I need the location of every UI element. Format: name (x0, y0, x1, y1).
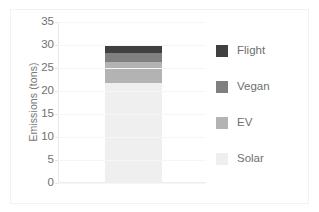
gridline (58, 114, 206, 115)
gridline (58, 183, 206, 184)
legend-item-vegan[interactable]: Vegan (216, 80, 270, 94)
legend-item-flight[interactable]: Flight (216, 44, 265, 58)
y-axis-tick-label: 30 (26, 39, 54, 51)
legend-label: EV (237, 117, 252, 129)
y-axis-tick-label: 5 (26, 154, 54, 166)
y-axis-tick-label: 10 (26, 131, 54, 143)
y-axis-tick-label: 25 (26, 62, 54, 74)
bar-segment-ev[interactable] (105, 62, 162, 83)
gridline (58, 22, 206, 23)
y-axis-tick-mark (55, 160, 58, 161)
plot-area (58, 22, 206, 183)
y-axis-tick-mark (55, 91, 58, 92)
y-axis-tick-mark (55, 45, 58, 46)
gridline (58, 68, 206, 69)
y-axis-tick-label: 0 (26, 177, 54, 189)
legend-label: Flight (237, 45, 265, 57)
bar-segment-flight[interactable] (105, 46, 162, 53)
legend-swatch-flight (216, 45, 228, 57)
legend-swatch-solar (216, 153, 228, 165)
y-axis-tick-labels: 35302520151050 (26, 15, 54, 185)
legend-label: Vegan (237, 81, 270, 93)
legend-label: Solar (237, 153, 264, 165)
y-axis-tick-label: 20 (26, 85, 54, 97)
gridline (58, 45, 206, 46)
y-axis-tick-label: 35 (26, 16, 54, 28)
y-axis-tick-mark (55, 183, 58, 184)
stacked-bar-chart: Emissions (tons) 35302520151050 FlightVe… (0, 0, 319, 212)
legend-swatch-vegan (216, 81, 228, 93)
y-axis-tick-mark (55, 68, 58, 69)
gridline (58, 137, 206, 138)
legend-item-ev[interactable]: EV (216, 116, 252, 130)
gridline (58, 160, 206, 161)
bar-segment-vegan[interactable] (105, 53, 162, 62)
legend-item-solar[interactable]: Solar (216, 152, 264, 166)
y-axis-tick-mark (55, 22, 58, 23)
bar-segment-solar[interactable] (105, 83, 162, 183)
y-axis-line (58, 22, 59, 183)
gridline (58, 91, 206, 92)
y-axis-tick-mark (55, 137, 58, 138)
y-axis-tick-mark (55, 114, 58, 115)
legend-swatch-ev (216, 117, 228, 129)
y-axis-tick-label: 15 (26, 108, 54, 120)
